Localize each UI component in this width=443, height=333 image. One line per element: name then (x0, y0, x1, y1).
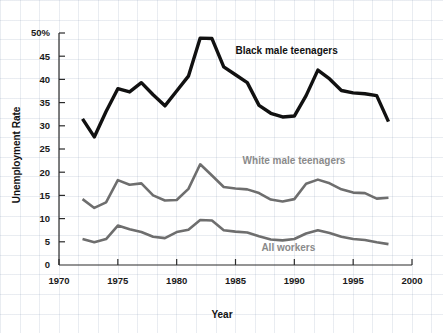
y-tick-40: 40 (39, 74, 50, 85)
series-label-all-workers: All workers (261, 242, 315, 253)
x-tick-1990: 1990 (284, 275, 305, 286)
y-axis-title: Unemployment Rate (11, 106, 22, 203)
y-tick-25: 25 (39, 143, 50, 154)
data-series-group (83, 38, 389, 244)
y-tick-10: 10 (39, 213, 50, 224)
x-axis-tick-labels: 1970197519801985199019952000 (48, 275, 422, 286)
axis-tick-marks (59, 33, 412, 265)
y-tick-15: 15 (39, 190, 50, 201)
series-line-all-workers (83, 220, 389, 244)
chart-svg: 50%454035302520151050 197019751980198519… (0, 0, 443, 333)
x-axis-title: Year (211, 309, 232, 320)
y-tick-30: 30 (39, 120, 50, 131)
x-tick-1970: 1970 (48, 275, 69, 286)
y-tick-0: 0 (45, 259, 50, 270)
x-tick-1995: 1995 (343, 275, 365, 286)
y-tick-5: 5 (45, 236, 51, 247)
y-tick-20: 20 (39, 167, 50, 178)
unemployment-rate-line-chart: 50%454035302520151050 197019751980198519… (0, 0, 443, 333)
x-tick-1975: 1975 (107, 275, 129, 286)
y-tick-35: 35 (39, 97, 50, 108)
y-tick-50: 50% (31, 27, 51, 38)
y-tick-45: 45 (39, 51, 50, 62)
series-label-black-male-teenagers: Black male teenagers (236, 45, 339, 56)
x-tick-1985: 1985 (225, 275, 247, 286)
x-tick-2000: 2000 (401, 275, 422, 286)
series-label-white-male-teenagers: White male teenagers (243, 155, 346, 166)
x-tick-1980: 1980 (166, 275, 187, 286)
series-line-white-male-teenagers (83, 164, 389, 208)
y-axis-tick-labels: 50%454035302520151050 (31, 27, 51, 270)
